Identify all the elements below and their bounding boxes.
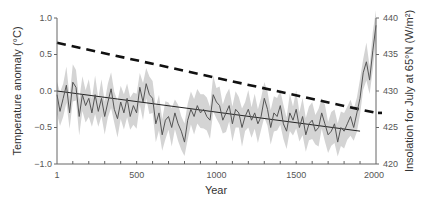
- y-tick-label: −0.5: [34, 122, 52, 132]
- y2-axis-title: Insolation for July at 65°N (W/m²): [403, 10, 415, 172]
- y2-tick-label: 420: [383, 159, 398, 169]
- y-tick-label: −1.0: [34, 159, 52, 169]
- y2-tick-label: 430: [383, 86, 398, 96]
- y2-tick-label: 440: [383, 13, 398, 23]
- x-tick-label: 1500: [286, 170, 306, 180]
- y2-tick-label: 425: [383, 122, 398, 132]
- x-tick-label: 500: [129, 170, 144, 180]
- x-tick-labels: 1 500 1000 1500 2000: [54, 170, 384, 180]
- y2-tick-label: 435: [383, 49, 398, 59]
- y-axis-title: Temperature anomaly (°C): [11, 26, 23, 155]
- x-tick-label: 1: [54, 170, 59, 180]
- right-y-tick-labels: 440 435 430 425 420: [383, 13, 398, 169]
- x-axis-title: Year: [205, 184, 228, 196]
- x-tick-label: 1000: [206, 170, 226, 180]
- left-y-tick-labels: 1.0 0.5 0.0 −0.5 −1.0: [34, 13, 52, 169]
- y-tick-label: 1.0: [39, 13, 52, 23]
- y-tick-label: 0.0: [39, 86, 52, 96]
- temperature-insolation-chart: 1.0 0.5 0.0 −0.5 −1.0 440 435 430 425 42…: [0, 0, 431, 210]
- x-tick-label: 2000: [364, 170, 384, 180]
- y-tick-label: 0.5: [39, 49, 52, 59]
